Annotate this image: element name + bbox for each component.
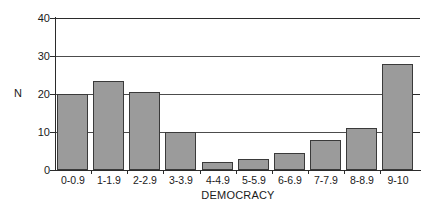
y-tick-label-0: 0 xyxy=(22,165,50,176)
bar-3-3.9 xyxy=(165,132,196,170)
x-tick-label-0-0.9: 0-0.9 xyxy=(54,174,92,187)
bar-0-0.9 xyxy=(57,94,88,170)
bar-6-6.9 xyxy=(274,153,305,170)
bar-8-8.9 xyxy=(346,128,377,170)
x-tick-label-9-10: 9-10 xyxy=(379,174,417,187)
x-axis-title: DEMOCRACY xyxy=(55,188,421,202)
x-tick-label-8-8.9: 8-8.9 xyxy=(343,174,381,187)
x-tick-label-7-7.9: 7-7.9 xyxy=(307,174,345,187)
x-tick-label-3-3.9: 3-3.9 xyxy=(162,174,200,187)
x-tick-label-5-5.9: 5-5.9 xyxy=(235,174,273,187)
bar-5-5.9 xyxy=(238,159,269,170)
bar-7-7.9 xyxy=(310,140,341,170)
x-axis-tick-labels: 0-0.9 1-1.9 2-2.9 3-3.9 4-4.9 5-5.9 6-6.… xyxy=(55,174,421,188)
y-tick-label-30: 30 xyxy=(22,51,50,62)
bar-4-4.9 xyxy=(202,162,233,170)
y-axis-title: N xyxy=(14,86,22,100)
x-tick-label-6-6.9: 6-6.9 xyxy=(271,174,309,187)
y-tick-label-20: 20 xyxy=(22,89,50,100)
bars-layer xyxy=(55,18,421,171)
y-tick-label-10: 10 xyxy=(22,127,50,138)
bar-9-10 xyxy=(382,64,413,170)
y-tick-label-40: 40 xyxy=(22,13,50,24)
bar-1-1.9 xyxy=(93,81,124,170)
x-tick-label-4-4.9: 4-4.9 xyxy=(199,174,237,187)
y-axis-tick-labels: 40 30 20 10 0 xyxy=(22,0,50,206)
bar-2-2.9 xyxy=(129,92,160,170)
x-tick-label-1-1.9: 1-1.9 xyxy=(90,174,128,187)
x-tick-label-2-2.9: 2-2.9 xyxy=(126,174,164,187)
bar-chart: N 40 30 20 10 0 xyxy=(0,0,441,206)
